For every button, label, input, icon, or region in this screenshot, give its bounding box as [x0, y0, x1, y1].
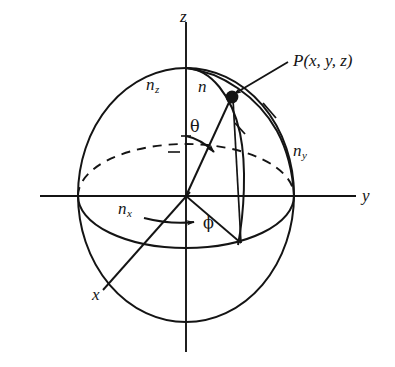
z-axis-label: z: [180, 8, 187, 25]
nx-vector-label: nx: [118, 200, 132, 219]
phi-angle-label: ϕ: [203, 215, 214, 231]
point-P-label: P(x, y, z): [293, 52, 352, 69]
ny-base: n: [293, 141, 302, 160]
nx-base: n: [118, 199, 127, 218]
angle-arcs-group: [144, 136, 214, 223]
n-vector-label: n: [198, 78, 207, 95]
figure-root: z y x nz n ny nx θ ϕ P(x, y, z): [0, 0, 395, 367]
nx-subscript: x: [127, 207, 132, 219]
nz-subscript: z: [155, 83, 159, 95]
x-axis-line: [103, 192, 190, 290]
x-axis-label: x: [92, 286, 100, 303]
ny-vector-label: ny: [293, 142, 307, 161]
point-P-leader-line: [234, 62, 288, 94]
ny-subscript: y: [302, 149, 307, 161]
theta-angle-label: θ: [190, 119, 200, 135]
nz-vector-label: nz: [146, 76, 159, 95]
nz-base: n: [146, 75, 155, 94]
y-axis-label: y: [362, 187, 370, 204]
